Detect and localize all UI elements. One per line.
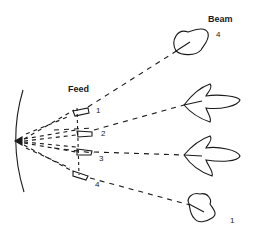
beam-rays bbox=[54, 50, 190, 205]
feed-label-4: 4 bbox=[95, 180, 99, 189]
beam-1-lobe bbox=[188, 194, 215, 222]
beam-heading: Beam bbox=[208, 14, 233, 24]
feed-label-2: 2 bbox=[101, 129, 105, 138]
feed-horn-4 bbox=[73, 171, 88, 180]
feed-label-1: 1 bbox=[96, 106, 100, 115]
beam-label-4: 4 bbox=[216, 30, 220, 39]
feed-horns bbox=[73, 108, 92, 180]
beam-4-lobe bbox=[174, 29, 208, 55]
feed-heading: Feed bbox=[68, 84, 89, 94]
feed-label-3: 3 bbox=[99, 154, 103, 163]
feed-rays bbox=[24, 110, 76, 172]
feed-axis bbox=[77, 108, 79, 175]
beam-label-1: 1 bbox=[230, 216, 234, 225]
feed-horn-2 bbox=[77, 131, 92, 137]
feed-horn-1 bbox=[73, 108, 89, 116]
